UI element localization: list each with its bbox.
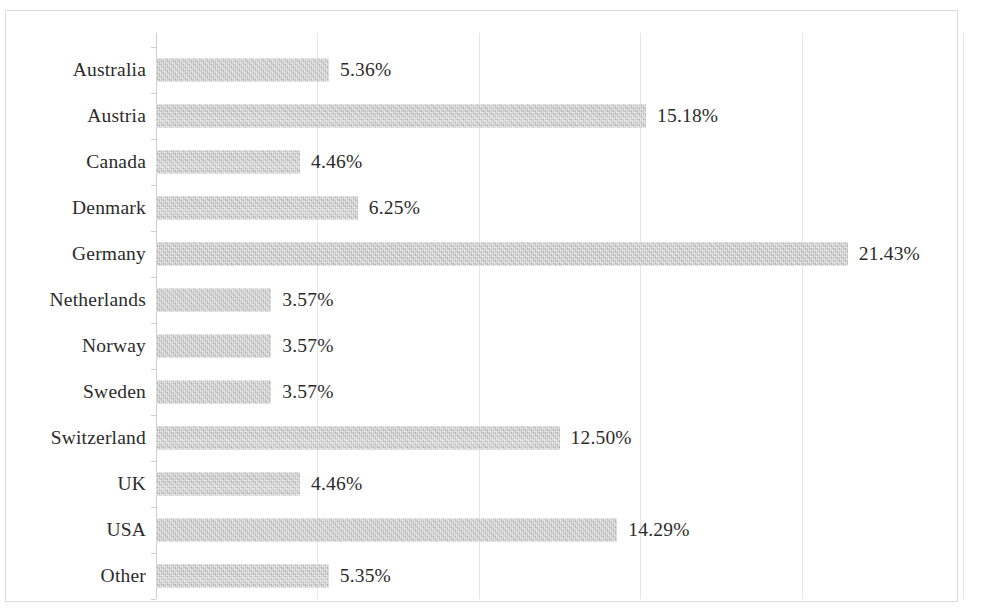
bar-row: Other5.35% xyxy=(156,553,964,599)
axis-tick xyxy=(151,323,156,324)
axis-tick xyxy=(151,139,156,140)
bar-row: Germany21.43% xyxy=(156,231,964,277)
bar xyxy=(156,197,358,220)
bar-value-label: 4.46% xyxy=(311,473,362,495)
bar xyxy=(156,289,271,312)
bar-value-label: 3.57% xyxy=(282,381,333,403)
axis-tick xyxy=(151,47,156,48)
axis-tick xyxy=(151,93,156,94)
bar xyxy=(156,105,646,128)
chart-plot-area: Australia5.36%Austria15.18%Canada4.46%De… xyxy=(156,33,964,599)
axis-tick xyxy=(151,185,156,186)
bar xyxy=(156,519,617,542)
bar-value-label: 21.43% xyxy=(859,243,920,265)
category-label: Other xyxy=(101,565,146,587)
bar-value-label: 14.29% xyxy=(628,519,689,541)
axis-tick xyxy=(151,369,156,370)
bar xyxy=(156,335,271,358)
category-label: Denmark xyxy=(72,197,146,219)
bar xyxy=(156,59,329,82)
bar-value-label: 3.57% xyxy=(282,289,333,311)
category-label: Sweden xyxy=(83,381,146,403)
bar-value-label: 3.57% xyxy=(282,335,333,357)
category-label: Canada xyxy=(86,151,146,173)
bar-value-label: 12.50% xyxy=(571,427,632,449)
bar-value-label: 15.18% xyxy=(657,105,718,127)
category-label: Germany xyxy=(72,243,146,265)
bar xyxy=(156,381,271,404)
bar-row: Canada4.46% xyxy=(156,139,964,185)
bar-row: Australia5.36% xyxy=(156,47,964,93)
axis-tick xyxy=(151,599,156,600)
bar-value-label: 6.25% xyxy=(369,197,420,219)
axis-tick xyxy=(151,553,156,554)
bar xyxy=(156,427,560,450)
axis-tick xyxy=(151,231,156,232)
bar-row: USA14.29% xyxy=(156,507,964,553)
bar xyxy=(156,151,300,174)
bar-value-label: 5.35% xyxy=(340,565,391,587)
category-label: Australia xyxy=(73,59,146,81)
category-label: Netherlands xyxy=(50,289,146,311)
category-label: Switzerland xyxy=(51,427,146,449)
bar-value-label: 4.46% xyxy=(311,151,362,173)
bar xyxy=(156,473,300,496)
bar-row: Switzerland12.50% xyxy=(156,415,964,461)
category-label: USA xyxy=(106,519,146,541)
category-label: UK xyxy=(117,473,146,495)
bar-row: UK4.46% xyxy=(156,461,964,507)
bar xyxy=(156,565,329,588)
axis-tick xyxy=(151,277,156,278)
axis-tick xyxy=(151,461,156,462)
bar-row: Sweden3.57% xyxy=(156,369,964,415)
bar-row: Denmark6.25% xyxy=(156,185,964,231)
bar-row: Norway3.57% xyxy=(156,323,964,369)
bar-row: Netherlands3.57% xyxy=(156,277,964,323)
axis-tick xyxy=(151,507,156,508)
bar-value-label: 5.36% xyxy=(340,59,391,81)
bar-row: Austria15.18% xyxy=(156,93,964,139)
axis-tick xyxy=(151,415,156,416)
bar xyxy=(156,243,848,266)
category-label: Austria xyxy=(87,105,146,127)
chart-frame: Australia5.36%Austria15.18%Canada4.46%De… xyxy=(5,10,958,602)
category-label: Norway xyxy=(82,335,146,357)
